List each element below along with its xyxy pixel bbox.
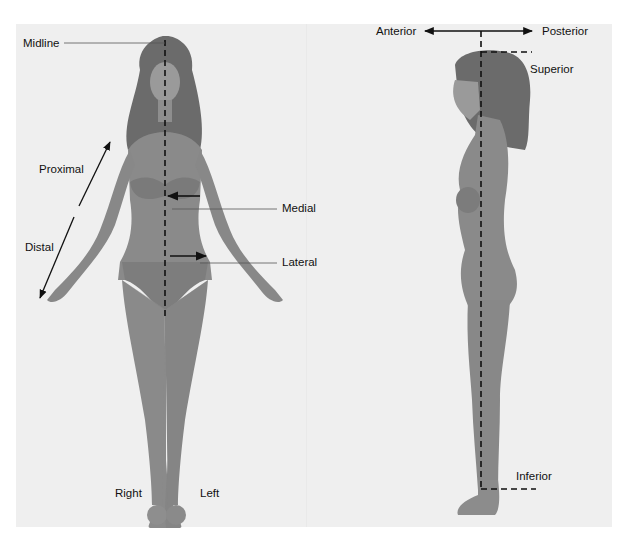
anatomy-figures — [0, 0, 626, 541]
side-figure — [453, 50, 530, 515]
midline-label: Midline — [23, 38, 59, 50]
superior-label: Superior — [530, 64, 573, 76]
left-label: Left — [200, 488, 219, 500]
anterior-label: Anterior — [376, 26, 416, 38]
distal-label: Distal — [25, 242, 54, 254]
right-label: Right — [115, 488, 142, 500]
inferior-label: Inferior — [516, 471, 552, 483]
lateral-label: Lateral — [282, 257, 317, 269]
posterior-label: Posterior — [542, 26, 588, 38]
medial-label: Medial — [282, 203, 316, 215]
proximal-label: Proximal — [39, 164, 84, 176]
